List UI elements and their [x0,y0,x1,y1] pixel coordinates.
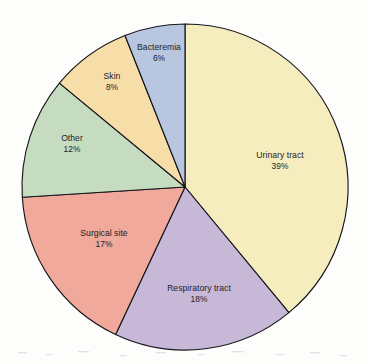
pie-slice-label-skin: Skin8% [104,71,121,92]
pie-slice-label-percent: 8% [106,82,119,92]
pie-chart-figure: Urinary tract39%Respiratory tract18%Surg… [0,0,368,364]
pie-chart: Urinary tract39%Respiratory tract18%Surg… [0,0,368,364]
pie-slice-label-name: Other [61,133,83,143]
pie-slice-label-percent: 17% [96,239,113,249]
pie-slice-label-percent: 18% [191,294,208,304]
pie-slice-label-name: Skin [104,71,121,81]
pie-slice-label-percent: 6% [153,53,166,63]
pie-slice-label-percent: 39% [272,161,289,171]
pie-slice-label-other: Other12% [61,133,83,154]
pie-slice-label-name: Respiratory tract [167,283,231,293]
pie-slice-label-name: Surgical site [80,228,128,238]
pie-slice-label-name: Bacteremia [137,42,181,52]
pie-slice-group [22,24,348,350]
pie-slice-label-percent: 12% [64,144,81,154]
pie-slice-label-name: Urinary tract [256,150,304,160]
